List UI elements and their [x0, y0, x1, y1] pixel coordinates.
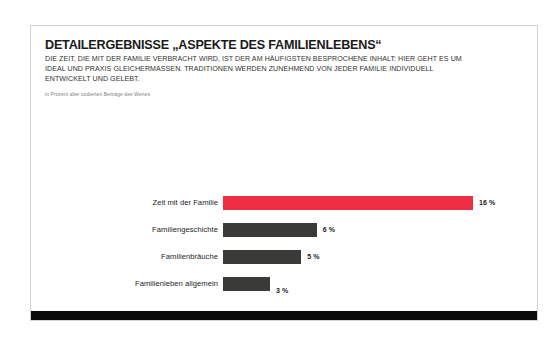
bar-category-label: Zeit mit der Familie: [31, 196, 218, 210]
bar-row: Familienleben allgemein 3 %: [31, 277, 537, 304]
page-subtitle: DIE ZEIT, DIE MIT DER FAMILIE VERBRACHT …: [45, 54, 465, 84]
bar-track: 3 %: [223, 277, 537, 291]
bar-row: Familienbräuche 5 %: [31, 250, 537, 277]
bar-fill: [223, 250, 301, 264]
bar-row: Familiengeschichte 6 %: [31, 223, 537, 250]
bar-row: Zeit mit der Familie 16 %: [31, 196, 537, 223]
header-block: DETAILERGEBNISSE „ASPEKTE DES FAMILIENLE…: [45, 38, 525, 97]
bar-value-label: 3 %: [276, 277, 288, 305]
bar-value-label: 16 %: [479, 196, 495, 210]
bar-category-label: Familienleben allgemein: [31, 277, 218, 291]
bar-fill: [223, 196, 473, 210]
bar-track: 16 %: [223, 196, 537, 210]
bar-value-label: 5 %: [307, 250, 319, 264]
bar-value-label: 6 %: [323, 223, 335, 237]
page-title: DETAILERGEBNISSE „ASPEKTE DES FAMILIENLE…: [45, 38, 525, 52]
chart-source-note: in Prozent aller codierten Beiträge des …: [45, 92, 525, 97]
bar-category-label: Familienbräuche: [31, 250, 218, 264]
bar-chart: Zeit mit der Familie 16 % Familiengeschi…: [31, 196, 537, 304]
slide-canvas: DETAILERGEBNISSE „ASPEKTE DES FAMILIENLE…: [30, 25, 538, 321]
bar-fill: [223, 223, 317, 237]
footer-accent-bar: [31, 311, 537, 320]
bar-category-label: Familiengeschichte: [31, 223, 218, 237]
bar-track: 6 %: [223, 223, 537, 237]
bar-track: 5 %: [223, 250, 537, 264]
bar-fill: [223, 277, 270, 291]
